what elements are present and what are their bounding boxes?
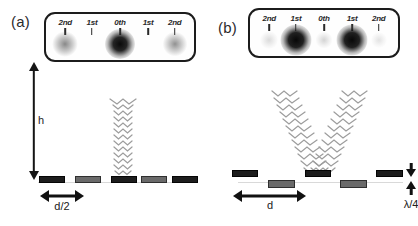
order-tick-0th — [119, 28, 121, 35]
order-label-0th: 0th — [114, 18, 125, 27]
order-label-2nd-right: 2nd — [372, 14, 386, 23]
step-label-lambda: λ/4 — [404, 198, 418, 210]
diffraction-spot-0th — [316, 32, 333, 49]
order-label-2nd-left: 2nd — [58, 18, 72, 27]
step-measure-lambda — [404, 163, 418, 195]
diffraction-spot-2nd-left — [260, 31, 278, 49]
beam-a — [104, 97, 142, 177]
order-label-1st-right: 1st — [143, 18, 154, 27]
grating-bar-b-1 — [232, 170, 258, 177]
panel-b-letter: (b) — [218, 19, 237, 36]
grating-bar-a-4 — [141, 176, 167, 183]
grating-bar-a-2 — [75, 176, 101, 183]
panel-a: (a) 2nd 1st 0th 1st 2nd h — [0, 0, 208, 226]
order-tick-2nd-left — [64, 28, 66, 35]
period-label-b: d — [267, 199, 273, 211]
height-label-h: h — [38, 114, 44, 126]
grating-bar-b-3 — [305, 170, 331, 177]
diffraction-spot-2nd-left — [52, 31, 78, 57]
grating-bar-b-2 — [268, 180, 295, 188]
order-tick-1st-left — [91, 28, 93, 35]
order-label-1st-left: 1st — [290, 14, 301, 23]
order-tick-1st-left — [295, 24, 297, 31]
panel-a-letter: (a) — [11, 13, 30, 30]
grating-bar-b-4 — [340, 180, 367, 188]
grating-bar-a-5 — [172, 176, 198, 183]
order-label-2nd-left: 2nd — [262, 14, 276, 23]
diffraction-spot-2nd-right — [371, 32, 387, 48]
grating-bar-b-5 — [376, 170, 403, 177]
order-tick-2nd-right — [378, 24, 380, 31]
detector-screen-a: 2nd 1st 0th 1st 2nd — [44, 12, 196, 62]
beam-b-wave — [266, 88, 376, 178]
panel-b: (b) 2nd 1st 0th 1st 2nd — [208, 0, 416, 226]
order-tick-2nd-left — [268, 24, 270, 31]
grating-baseline-b — [238, 182, 403, 183]
beam-b — [266, 88, 376, 178]
order-label-1st-left: 1st — [86, 18, 97, 27]
order-label-1st-right: 1st — [347, 14, 358, 23]
grating-bar-a-3 — [111, 176, 137, 183]
detector-screen-b: 2nd 1st 0th 1st 2nd — [248, 8, 400, 58]
order-tick-1st-right — [351, 24, 353, 31]
order-label-2nd-right: 2nd — [168, 18, 182, 27]
grating-bar-a-1 — [39, 176, 65, 183]
order-tick-0th — [323, 24, 325, 31]
order-label-0th: 0th — [318, 14, 329, 23]
order-tick-2nd-right — [174, 28, 176, 35]
period-label-a: d/2 — [54, 200, 69, 212]
beam-a-wave — [104, 97, 142, 177]
diffraction-spot-2nd-right — [162, 32, 187, 57]
order-tick-1st-right — [147, 28, 149, 35]
